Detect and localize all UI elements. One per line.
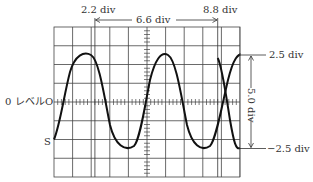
bottom-level-label: −2.5 div [267, 144, 310, 154]
top-level-label: 2.5 div [269, 50, 303, 60]
oscilloscope-graph [0, 0, 313, 182]
start-label: S [44, 137, 51, 147]
zero-level-label: 0 レベル [5, 97, 45, 107]
right-marker-label: 8.8 div [203, 5, 237, 15]
period-markers [95, 18, 218, 177]
left-marker-label: 2.2 div [81, 5, 115, 15]
origin-label: O [45, 97, 53, 107]
peak-to-peak-label: 5.0 div [246, 88, 256, 118]
period-label: 6.6 div [136, 15, 170, 25]
